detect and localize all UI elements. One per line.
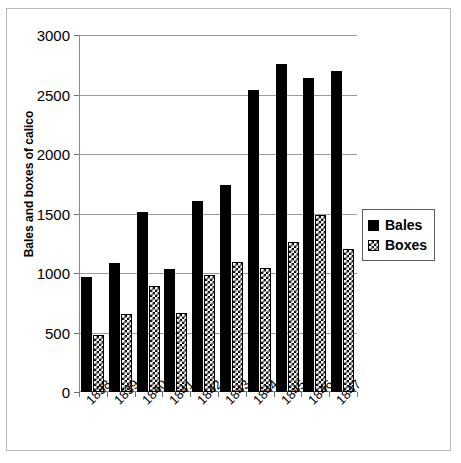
bar-group xyxy=(331,35,359,392)
y-tick-label: 2500 xyxy=(37,86,70,103)
bar-group xyxy=(192,35,220,392)
y-tick-mark xyxy=(74,333,79,334)
bar-boxes-1843[interactable] xyxy=(232,262,243,392)
y-tick-label: 500 xyxy=(45,324,70,341)
bar-bales-1841[interactable] xyxy=(164,269,175,392)
bar-group xyxy=(81,35,109,392)
y-tick-label: 2000 xyxy=(37,146,70,163)
bar-group xyxy=(276,35,304,392)
bar-bales-1846[interactable] xyxy=(303,78,314,392)
bar-boxes-1842[interactable] xyxy=(204,275,215,392)
legend-label: Boxes xyxy=(385,237,427,253)
bar-bales-1847[interactable] xyxy=(331,71,342,392)
plot-area: 050010001500200025003000 xyxy=(79,35,357,392)
y-tick-label: 3000 xyxy=(37,27,70,44)
legend-item-boxes[interactable]: Boxes xyxy=(368,235,427,255)
y-tick-mark xyxy=(74,154,79,155)
checkered-square-icon xyxy=(368,240,379,251)
chart-frame: Bales and boxes of calico 05001000150020… xyxy=(6,8,451,451)
legend-item-bales[interactable]: Bales xyxy=(368,215,427,235)
bar-boxes-1847[interactable] xyxy=(343,249,354,392)
bar-bales-1839[interactable] xyxy=(109,263,120,392)
y-tick-label: 1500 xyxy=(37,205,70,222)
bar-group xyxy=(303,35,331,392)
bar-group xyxy=(137,35,165,392)
legend-label: Bales xyxy=(385,217,422,233)
bar-group xyxy=(109,35,137,392)
y-tick-mark xyxy=(74,273,79,274)
x-axis-labels: 1838183918401841184218431844184518461847 xyxy=(79,397,357,447)
bar-group xyxy=(248,35,276,392)
bar-boxes-1844[interactable] xyxy=(260,268,271,392)
bar-bales-1844[interactable] xyxy=(248,90,259,392)
bar-bales-1843[interactable] xyxy=(220,185,231,392)
bar-boxes-1846[interactable] xyxy=(315,215,326,392)
y-tick-mark xyxy=(74,35,79,36)
bar-bales-1838[interactable] xyxy=(81,277,92,392)
chart-legend: BalesBoxes xyxy=(362,209,435,261)
y-tick-mark xyxy=(74,95,79,96)
bar-bales-1840[interactable] xyxy=(137,212,148,392)
y-axis-title: Bales and boxes of calico xyxy=(22,84,36,284)
bar-bales-1842[interactable] xyxy=(192,201,203,392)
solid-black-square-icon xyxy=(368,220,379,231)
y-tick-label: 1000 xyxy=(37,265,70,282)
bar-boxes-1845[interactable] xyxy=(288,242,299,392)
bar-group xyxy=(164,35,192,392)
y-tick-mark xyxy=(74,214,79,215)
bar-bales-1845[interactable] xyxy=(276,64,287,392)
y-tick-label: 0 xyxy=(62,384,70,401)
bar-group xyxy=(220,35,248,392)
